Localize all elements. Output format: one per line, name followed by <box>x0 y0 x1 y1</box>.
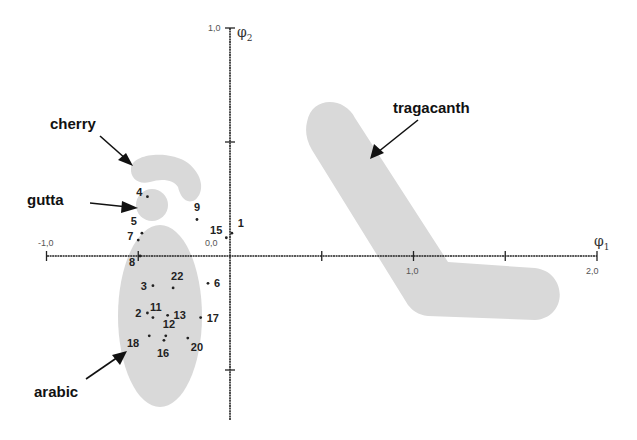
data-point-22 <box>172 287 175 290</box>
data-point-15 <box>225 236 228 239</box>
x-tick-label-2: 2,0 <box>586 266 599 276</box>
group-label-arabic: arabic <box>34 383 78 400</box>
x-tick-label-1: 1,0 <box>406 266 419 276</box>
point-label-7: 7 <box>127 230 133 242</box>
group-label-gutta: gutta <box>27 191 64 208</box>
point-label-8: 8 <box>129 256 135 268</box>
arrow-tragacanth <box>378 120 418 152</box>
data-point-18 <box>148 334 151 337</box>
point-label-17: 17 <box>207 312 219 324</box>
x-tick-label-neg1: -1,0 <box>38 238 54 248</box>
point-label-13: 13 <box>174 309 186 321</box>
data-point-17 <box>199 316 202 319</box>
data-point-11 <box>152 316 155 319</box>
point-label-5: 5 <box>131 215 137 227</box>
data-point-3 <box>152 284 155 287</box>
data-point-8 <box>139 255 142 258</box>
region-arabic <box>118 225 202 407</box>
data-point-2 <box>146 312 149 315</box>
point-label-20: 20 <box>191 341 203 353</box>
arrowhead-gutta <box>121 201 138 213</box>
point-label-9: 9 <box>194 201 200 213</box>
origin-label: 0,0 <box>205 238 218 248</box>
data-point-16 <box>163 339 166 342</box>
point-label-4: 4 <box>136 186 143 198</box>
data-point-5 <box>141 232 144 235</box>
data-point-1 <box>230 232 233 235</box>
point-label-15: 15 <box>210 224 222 236</box>
y-axis-label: φ2 <box>237 24 253 43</box>
point-label-22: 22 <box>171 270 183 282</box>
point-label-2: 2 <box>135 307 141 319</box>
group-label-tragacanth: tragacanth <box>393 99 470 116</box>
pca-score-plot: -1,0 0,0 1,0 2,0 1,0 φ1 φ2 1234567891112… <box>0 0 637 440</box>
point-label-11: 11 <box>150 301 162 313</box>
data-point-7 <box>137 239 140 242</box>
point-label-1: 1 <box>238 217 244 229</box>
region-tragacanth <box>306 102 560 320</box>
x-axis-label: φ1 <box>594 233 610 252</box>
point-label-16: 16 <box>157 347 169 359</box>
data-point-12 <box>164 334 167 337</box>
data-point-6 <box>207 282 210 285</box>
arrow-cherry <box>100 136 126 159</box>
point-label-3: 3 <box>141 280 147 292</box>
y-tick-label-1: 1,0 <box>208 23 221 33</box>
data-point-9 <box>196 218 199 221</box>
data-point-13 <box>166 314 169 317</box>
data-point-4 <box>146 195 149 198</box>
arrow-arabic <box>86 357 118 379</box>
group-label-cherry: cherry <box>50 115 97 132</box>
data-point-20 <box>186 337 189 340</box>
point-label-18: 18 <box>127 337 139 349</box>
group-regions <box>118 102 560 407</box>
point-label-6: 6 <box>214 277 220 289</box>
